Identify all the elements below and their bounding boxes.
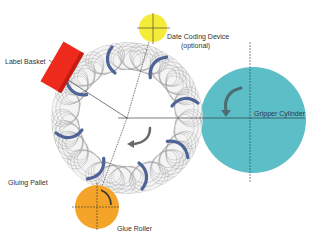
rotation-arrow-icon [134,128,150,144]
labeling-station-diagram [0,0,315,241]
label-basket-label: Label Basket [5,58,45,66]
glue-roller-label: Glue Roller [117,225,152,233]
date-coding-device [137,13,170,44]
gripper-cylinder-label: Gripper Cylinder [254,110,305,118]
gluing-pallet-label: Gluing Pallet [8,179,48,187]
date-coding-label: Date Coding Device [167,33,229,41]
date-coding-sublabel: (optional) [181,42,210,50]
